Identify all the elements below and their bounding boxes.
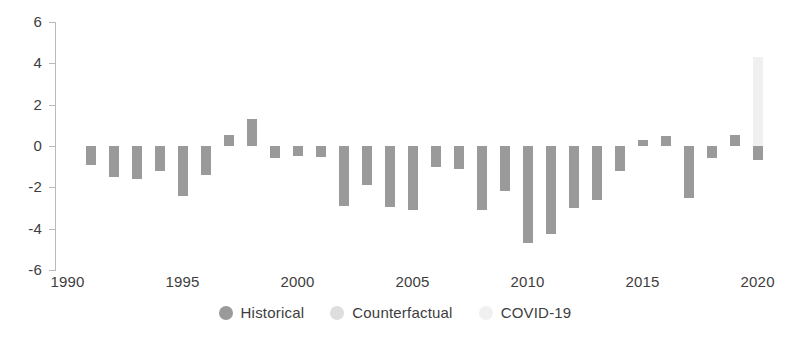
- legend-swatch-counterfactual-icon: [330, 306, 344, 320]
- bar-historical-1995: [178, 146, 188, 196]
- bar-historical-2011: [546, 146, 556, 234]
- y-axis-tick: [49, 63, 56, 64]
- bar-historical-1999: [270, 146, 280, 158]
- bar-historical-2016: [661, 136, 671, 146]
- x-axis-tick-label: 2000: [280, 274, 314, 289]
- bar-historical-2010: [523, 146, 533, 243]
- bar-historical-1998: [247, 119, 257, 146]
- bar-historical-1991: [86, 146, 96, 165]
- bar-historical-2002: [339, 146, 349, 206]
- bar-historical-1994: [155, 146, 165, 171]
- bar-historical-2009: [500, 146, 510, 191]
- y-axis-tick-label: 2: [2, 97, 42, 112]
- bar-historical-1997: [224, 135, 234, 146]
- bar-historical-2008: [477, 146, 487, 210]
- bar-historical-1992: [109, 146, 119, 177]
- bar-historical-2015: [638, 140, 648, 146]
- y-axis-tick: [49, 22, 56, 23]
- y-axis-tick-label: 6: [2, 14, 42, 29]
- legend-swatch-historical-icon: [219, 306, 233, 320]
- plot-area: [56, 22, 776, 270]
- bar-historical-1993: [132, 146, 142, 179]
- bar-historical-2018: [707, 146, 717, 158]
- bar-historical-2014: [615, 146, 625, 171]
- bar-historical-2012: [569, 146, 579, 208]
- legend-swatch-covid-icon: [479, 306, 493, 320]
- y-axis-tick-label: -4: [2, 221, 42, 236]
- x-axis-tick-label: 2005: [395, 274, 429, 289]
- y-axis-tick-label: -6: [2, 262, 42, 277]
- bar-historical-2019: [730, 135, 740, 146]
- y-axis-tick-label: -2: [2, 179, 42, 194]
- chart-legend: Historical Counterfactual COVID-19: [0, 305, 790, 320]
- legend-label-historical: Historical: [241, 305, 305, 320]
- y-axis-tick: [49, 105, 56, 106]
- x-axis-tick-label: 2015: [625, 274, 659, 289]
- legend-item-counterfactual[interactable]: Counterfactual: [330, 305, 452, 320]
- y-axis-tick-label: 0: [2, 138, 42, 153]
- x-axis-tick-label: 1995: [165, 274, 199, 289]
- x-axis-tick-label: 1990: [50, 274, 84, 289]
- bar-historical-1996: [201, 146, 211, 175]
- bar-historical-2006: [431, 146, 441, 167]
- bar-covid-19-2020: [753, 57, 763, 146]
- bar-historical-2000: [293, 146, 303, 156]
- bar-historical-2013: [592, 146, 602, 200]
- legend-item-covid[interactable]: COVID-19: [479, 305, 572, 320]
- bar-historical-2003: [362, 146, 372, 185]
- x-axis-tick-label: 2010: [510, 274, 544, 289]
- y-axis-tick: [49, 146, 56, 147]
- bar-historical-2001: [316, 146, 326, 157]
- y-axis-tick: [49, 270, 56, 271]
- y-axis-tick: [49, 229, 56, 230]
- bar-historical-2017: [684, 146, 694, 198]
- bar-historical-2007: [454, 146, 464, 169]
- legend-label-counterfactual: Counterfactual: [352, 305, 452, 320]
- bar-historical-2005: [408, 146, 418, 210]
- bar-historical-2020: [753, 146, 763, 160]
- bar-chart: 6420-2-4-61990199520002005201020152020 H…: [0, 0, 790, 341]
- y-axis-tick: [49, 187, 56, 188]
- x-axis-tick-label: 2020: [741, 274, 775, 289]
- bar-historical-2004: [385, 146, 395, 207]
- legend-item-historical[interactable]: Historical: [219, 305, 305, 320]
- legend-label-covid: COVID-19: [501, 305, 572, 320]
- y-axis-tick-label: 4: [2, 55, 42, 70]
